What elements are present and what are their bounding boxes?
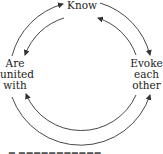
node-are-united-with: Are united with [0,58,30,91]
outer-arrow-are-to-evoke [12,95,150,145]
node-know-label: Know [64,0,100,11]
outer-arrow-are-to-know [12,4,63,56]
inner-arrow-know-to-are [25,18,64,55]
node-know: Know [64,0,100,11]
node-are-line-3: with [0,80,30,91]
diagram-caption-cutoff: ▬ ▬▬▬▬▬▬▬▬▬▬▬ [8,148,158,154]
cycle-diagram: Know Are united with Evoke each other ▬ … [0,0,163,154]
node-evoke-line-3: other [130,80,163,91]
inner-arrow-evoke-to-are [26,94,136,131]
node-evoke-each-other: Evoke each other [130,58,163,91]
inner-arrow-evoke-to-know [98,18,136,55]
outer-arrow-know-to-evoke [100,3,150,55]
